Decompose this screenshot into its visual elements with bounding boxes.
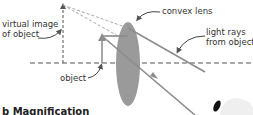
virtual-image-label-line2: of object — [2, 29, 39, 39]
object-callout — [88, 66, 101, 78]
virtual-ray-1 — [63, 5, 128, 28]
light-ray-lower — [102, 36, 195, 115]
light-rays-label-line2: from object — [206, 37, 253, 47]
light-rays-label-line1: light rays — [206, 27, 246, 37]
light-rays-callout — [178, 36, 205, 51]
virtual-image-callout — [38, 31, 60, 38]
magnification-diagram — [0, 0, 253, 115]
convex-lens-label: convex lens — [162, 6, 213, 16]
virtual-ray-2 — [63, 5, 118, 36]
virtual-image-label-line1: virtual image — [2, 19, 58, 29]
object-label: object — [60, 73, 86, 83]
convex-lens-callout — [138, 12, 160, 19]
section-title: b Magnification — [2, 107, 89, 115]
eye-icon — [220, 98, 253, 115]
convex-lens — [116, 22, 140, 106]
eye-pupil — [212, 99, 223, 112]
